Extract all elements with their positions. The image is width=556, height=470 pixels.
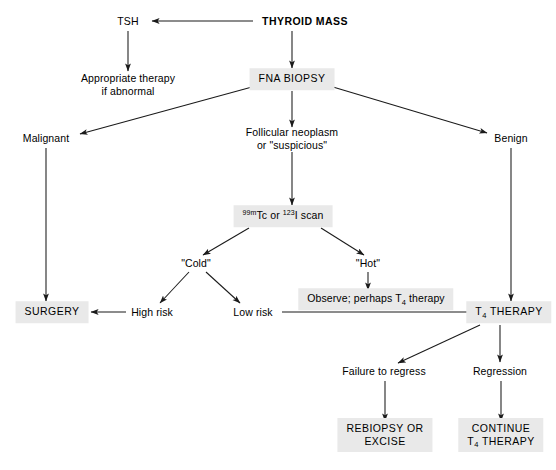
node-high-risk: High risk xyxy=(131,306,173,319)
node-continue-line1: CONTINUE xyxy=(467,422,534,435)
continue-text-post: THERAPY xyxy=(479,435,535,447)
continue-text-pre: T xyxy=(467,435,474,447)
observe-text-post: therapy xyxy=(406,292,445,304)
node-radionuclide-scan: 99mTc or 123I scan xyxy=(234,205,333,227)
edge-t4-to-failure xyxy=(398,325,480,363)
node-failure-to-regress: Failure to regress xyxy=(342,365,426,378)
node-follicular-neoplasm: Follicular neoplasm or "suspicious" xyxy=(246,126,338,151)
node-surgery-label: SURGERY xyxy=(25,305,80,318)
node-low-risk-label: Low risk xyxy=(233,306,272,319)
node-cold-label: "Cold" xyxy=(181,257,211,270)
node-cold: "Cold" xyxy=(181,257,211,270)
node-continue-line2: T4 THERAPY xyxy=(467,435,534,448)
scan-text-tc: Tc or xyxy=(257,209,283,221)
node-benign-label: Benign xyxy=(494,132,527,145)
node-observe-perhaps-t4-therapy: Observe; perhaps T4 therapy xyxy=(298,288,453,310)
node-follicular-neoplasm-line2: or "suspicious" xyxy=(246,138,338,151)
node-malignant-label: Malignant xyxy=(23,132,69,145)
node-t4-therapy-label: T4 THERAPY xyxy=(475,305,542,318)
node-rebiopsy-line1: REBIOPSY OR xyxy=(346,422,423,435)
edge-cold-to-low-risk xyxy=(206,272,240,303)
continue-subscript-4: 4 xyxy=(474,440,479,449)
node-hot-label: "Hot" xyxy=(356,257,380,270)
scan-text-tail: I scan xyxy=(295,209,324,221)
node-tsh: TSH xyxy=(117,15,138,28)
t4-therapy-subscript-4: 4 xyxy=(482,311,487,320)
node-high-risk-label: High risk xyxy=(131,306,173,319)
node-fna-biopsy: FNA BIOPSY xyxy=(250,68,335,90)
node-low-risk: Low risk xyxy=(233,306,272,319)
node-appropriate-therapy-line2: if abnormal xyxy=(81,84,175,97)
node-tsh-label: TSH xyxy=(117,15,138,28)
observe-subscript-4: 4 xyxy=(402,298,406,307)
observe-text-pre: Observe; perhaps T xyxy=(307,292,401,304)
node-observe-label: Observe; perhaps T4 therapy xyxy=(307,292,444,305)
node-thyroid-mass-label: THYROID MASS xyxy=(262,15,348,28)
edge-scan-to-hot xyxy=(321,228,364,255)
node-radionuclide-scan-label: 99mTc or 123I scan xyxy=(243,209,324,222)
node-fna-biopsy-label: FNA BIOPSY xyxy=(259,72,326,85)
node-appropriate-therapy-line1: Appropriate therapy xyxy=(81,72,175,85)
node-regression-label: Regression xyxy=(473,365,527,378)
node-regression: Regression xyxy=(473,365,527,378)
node-surgery: SURGERY xyxy=(16,301,89,323)
node-follicular-neoplasm-line1: Follicular neoplasm xyxy=(246,126,338,139)
node-thyroid-mass: THYROID MASS xyxy=(262,15,348,28)
t4-therapy-text-post: THERAPY xyxy=(487,305,543,317)
edge-fna-to-benign xyxy=(333,87,487,133)
thyroid-mass-flowchart: THYROID MASS TSH Appropriate therapy if … xyxy=(0,0,556,470)
node-continue-t4-therapy: CONTINUE T4 THERAPY xyxy=(458,418,543,452)
edge-scan-to-cold xyxy=(203,228,249,255)
node-appropriate-therapy: Appropriate therapy if abnormal xyxy=(81,72,175,97)
edge-cold-to-high-risk xyxy=(160,272,189,303)
node-benign: Benign xyxy=(494,132,527,145)
node-hot: "Hot" xyxy=(356,257,380,270)
node-rebiopsy-or-excise: REBIOPSY OR EXCISE xyxy=(337,418,432,452)
scan-superscript-tc: 99m xyxy=(243,209,257,216)
node-rebiopsy-line2: EXCISE xyxy=(346,435,423,448)
scan-superscript-i: 123 xyxy=(283,209,295,216)
t4-therapy-text-pre: T xyxy=(475,305,482,317)
node-t4-therapy: T4 THERAPY xyxy=(466,301,551,323)
node-malignant: Malignant xyxy=(23,132,69,145)
node-failure-to-regress-label: Failure to regress xyxy=(342,365,426,378)
